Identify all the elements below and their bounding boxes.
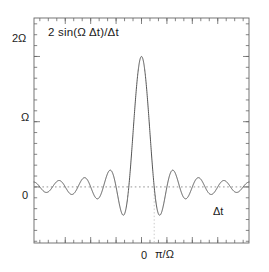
- x-axis-label: Δt: [213, 206, 223, 217]
- y-tick-label-2omega: 2Ω: [12, 33, 26, 44]
- sinc-function-plot-figure: 2Ω Ω 0 0 π/Ω Δt 2 sin(Ω Δt)/Δt: [0, 0, 269, 272]
- x-tick-label-pi-over-omega: π/Ω: [155, 249, 174, 260]
- sinc-curve: [34, 56, 249, 215]
- y-tick-label-omega: Ω: [21, 112, 29, 123]
- x-tick-label-zero: 0: [141, 250, 147, 261]
- formula-annotation: 2 sin(Ω Δt)/Δt: [48, 27, 119, 39]
- plot-canvas: [0, 0, 269, 272]
- y-tick-label-zero: 0: [22, 190, 28, 201]
